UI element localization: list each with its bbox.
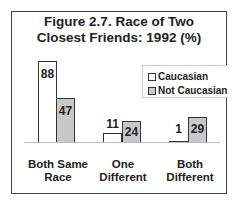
value-label: 29 [188,122,207,136]
value-label: 24 [122,125,141,139]
legend-item-not-caucasian: Not Caucasian [148,85,227,96]
value-label: 11 [103,117,122,131]
legend-swatch-white-icon [148,73,156,81]
chart-title: Figure 2.7. Race of Two Closest Friends:… [11,14,227,46]
value-label: 47 [56,104,75,118]
legend-item-caucasian: Caucasian [148,71,208,82]
chart-title-line-2: Closest Friends: 1992 (%) [11,30,227,46]
value-label: 88 [38,67,57,81]
category-label-both-different: Both Different [156,158,224,184]
category-label-one-different: One Different [90,158,156,184]
legend-swatch-gray-icon [148,87,156,95]
category-label-both-same-race: Both Same Race [26,158,90,184]
value-label: 1 [169,122,188,136]
x-axis-line [24,142,220,143]
chart-title-line-1: Figure 2.7. Race of Two [11,14,227,30]
chart-legend: Caucasian Not Caucasian [142,65,228,98]
